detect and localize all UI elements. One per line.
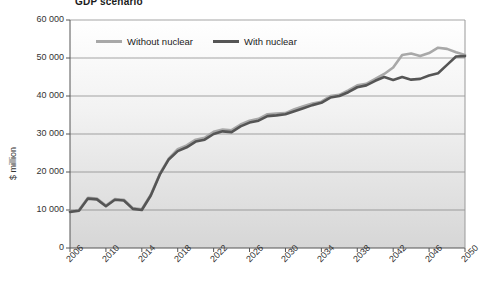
legend-item-without-nuclear: Without nuclear bbox=[96, 36, 193, 47]
gdp-scenario-chart: GDP scenario $ million 010 00020 00030 0… bbox=[0, 0, 479, 302]
legend-item-with-nuclear: With nuclear bbox=[213, 36, 297, 47]
y-axis-tick-label: 30 000 bbox=[18, 128, 64, 138]
y-axis-tick-label: 20 000 bbox=[18, 166, 64, 176]
y-axis-tick-label: 40 000 bbox=[18, 90, 64, 100]
y-axis-tick-label: 0 bbox=[18, 242, 64, 252]
y-axis-tick-label: 50 000 bbox=[18, 52, 64, 62]
legend-label-with-nuclear: With nuclear bbox=[244, 36, 297, 47]
legend-label-without-nuclear: Without nuclear bbox=[127, 36, 193, 47]
y-axis-tick-label: 60 000 bbox=[18, 14, 64, 24]
legend-swatch-with-nuclear bbox=[213, 40, 239, 43]
legend-swatch-without-nuclear bbox=[96, 40, 122, 43]
y-axis-tick-label: 10 000 bbox=[18, 204, 64, 214]
y-axis-ticks bbox=[66, 20, 70, 248]
